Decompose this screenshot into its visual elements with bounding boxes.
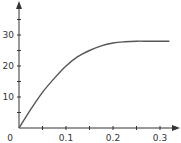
x-tick-label: 0.1 — [59, 133, 73, 143]
tick-labels: 0.10.20.31020300 — [3, 30, 168, 143]
x-tick-label: 0.3 — [153, 133, 167, 143]
tick-marks — [17, 20, 160, 131]
y-tick-label: 20 — [3, 61, 15, 71]
y-tick-label: 30 — [3, 30, 15, 40]
y-axis-arrow-icon — [16, 1, 22, 9]
y-tick-label: 10 — [3, 92, 15, 102]
line-chart: 0.10.20.31020300 — [0, 0, 181, 143]
origin-label: 0 — [7, 133, 13, 143]
data-curve — [19, 41, 169, 128]
x-tick-label: 0.2 — [106, 133, 120, 143]
plot-area — [19, 41, 169, 128]
axes — [16, 1, 180, 131]
x-axis-arrow-icon — [172, 125, 180, 131]
